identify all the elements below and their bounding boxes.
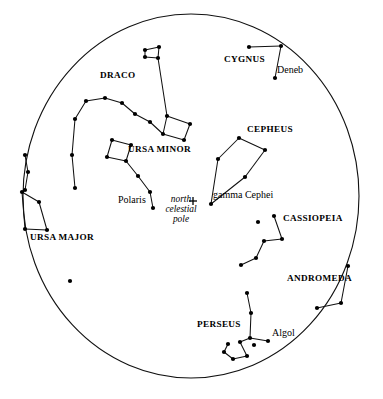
star-dot [136,174,140,178]
star-dot [346,264,350,268]
star-dot [188,122,192,126]
star-dot [151,206,155,210]
star-dot [110,138,114,142]
star-dot [70,153,74,157]
star-dot [182,138,186,142]
star-dot [143,48,147,52]
star-dot [237,136,241,140]
star-dot [73,186,77,190]
star-dot [279,44,283,48]
star-dot [124,159,128,163]
star-dot [129,143,133,147]
star-dot [315,306,319,310]
star-dot [245,354,249,358]
star-dot [256,220,260,224]
star-dot [105,155,109,159]
star-dot [266,339,270,343]
star-dot [272,214,276,218]
star-dot [216,157,220,161]
star-dot [148,190,152,194]
star-chart: DRACO CYGNUS CEPHEUS URSA MINOR CASSIOPE… [0,0,383,399]
star-dot [222,350,226,354]
star-dot [280,237,284,241]
star-dot [263,148,267,152]
star-dot [252,343,256,347]
horizon-circle [23,14,359,378]
star-dot [239,263,243,267]
star-dot [247,45,251,49]
star-dot [209,202,213,206]
star-dot [243,175,247,179]
star-dot [84,99,88,103]
star-dot [133,112,137,116]
star-dot [26,170,30,174]
star-dot [165,114,169,118]
star-dot [273,76,277,80]
star-dot [120,101,124,105]
star-dot [254,256,258,260]
star-dot [248,336,252,340]
star-dot [103,96,107,100]
star-dot [238,340,242,344]
star-dot [143,55,147,59]
star-dot [262,239,266,243]
star-dot [148,120,152,124]
star-dot [37,200,41,204]
star-dot [157,45,161,49]
star-dot [23,227,27,231]
star-dot [156,56,160,60]
star-dot [45,228,49,232]
star-dot [245,291,249,295]
star-dot [20,190,24,194]
star-dot [226,342,230,346]
star-dot [68,279,72,283]
star-dot [23,153,27,157]
star-dot [249,311,253,315]
star-dot [73,117,77,121]
sky-map-canvas [0,0,383,399]
star-dot [161,132,165,136]
star-dot [231,357,235,361]
star-dot [339,301,343,305]
